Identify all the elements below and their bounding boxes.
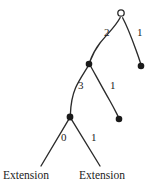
node-internal-lower[interactable] [67,114,74,121]
edge-label-n1-tipB: 1 [110,80,116,91]
node-internal-upper[interactable] [86,61,93,68]
edge-root-to-n1 [90,18,121,63]
edge-n1-to-tipB [91,67,119,117]
tree-graphic [0,0,155,189]
tree-diagram-canvas: 2 1 3 1 0 1 Extension Extension [0,0,155,189]
node-tip-right-upper[interactable] [138,63,145,70]
tree-edges [41,18,141,167]
leaf-label-extension-right: Extension [79,170,125,182]
edge-label-root-tipA: 1 [137,27,143,38]
leaf-label-extension-left: Extension [3,170,49,182]
edge-label-n1-n2: 3 [78,80,84,91]
edge-label-n2-tipD: 1 [91,132,97,143]
edge-root-to-tipA [123,18,141,64]
node-tip-right-lower[interactable] [116,116,123,123]
node-root-open-circle[interactable] [118,10,124,16]
edge-label-root-n1: 2 [104,27,110,38]
edge-label-n2-tipC: 0 [61,132,67,143]
